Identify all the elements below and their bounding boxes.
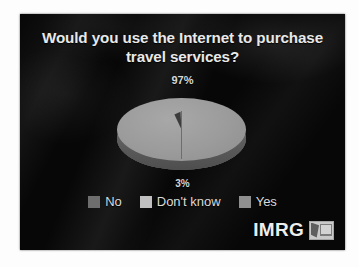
brand-name: IMRG: [253, 219, 304, 241]
legend-label-no: No: [105, 194, 122, 209]
imrg-logo-icon-shape-left: [311, 223, 319, 238]
legend-label-dont-know: Don't know: [157, 194, 221, 209]
pie-chart: [117, 98, 247, 180]
pie-label-no-percent: 3%: [20, 178, 345, 189]
legend-item-dont-know: Don't know: [140, 194, 221, 209]
screenshot-page: Would you use the Internet to purchase t…: [0, 0, 359, 267]
legend-swatch-yes-icon: [239, 196, 251, 208]
slide-title: Would you use the Internet to purchase t…: [28, 28, 337, 66]
pie-slice-divider: [181, 111, 182, 159]
imrg-logo-icon: [309, 221, 334, 240]
pie-label-yes-percent: 97%: [20, 74, 345, 86]
legend-item-no: No: [88, 194, 122, 209]
legend-swatch-no-icon: [88, 196, 100, 208]
legend-swatch-dont-know-icon: [140, 196, 152, 208]
legend-item-yes: Yes: [239, 194, 277, 209]
pie-slice-yes: [117, 98, 246, 161]
presentation-slide: Would you use the Internet to purchase t…: [20, 14, 345, 250]
chart-legend: No Don't know Yes: [20, 194, 345, 209]
imrg-logo-icon-shape-inner: [321, 225, 331, 234]
brand-logo: IMRG: [253, 219, 334, 241]
legend-label-yes: Yes: [256, 194, 277, 209]
